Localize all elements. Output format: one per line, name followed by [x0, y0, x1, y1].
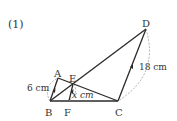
- point-D-label: D: [142, 18, 150, 29]
- point-E-label: E: [69, 73, 76, 84]
- measure-DC-label: 18 cm: [139, 62, 167, 72]
- point-C-label: C: [115, 107, 123, 118]
- point-B-label: B: [45, 107, 52, 118]
- point-A-label: A: [53, 68, 62, 79]
- measure-EF-label: x cm: [72, 90, 94, 100]
- measure-AB-label: 6 cm: [27, 83, 50, 93]
- geometry-figure: (1) A B C D E F 6 cm x cm 18 cm: [0, 0, 177, 121]
- problem-label: (1): [8, 18, 24, 31]
- point-F-label: F: [64, 107, 71, 118]
